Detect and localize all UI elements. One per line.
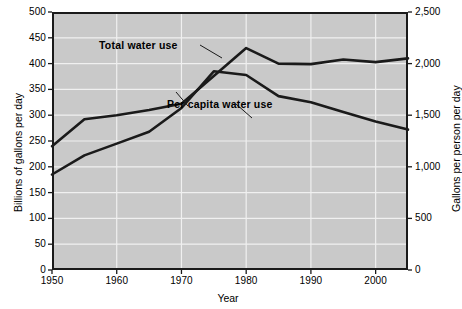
y-axis-left-tick: 100 [8,213,46,223]
y-axis-left-tick: 450 [8,33,46,43]
y-axis-right-tick: 1,500 [415,110,441,120]
y-axis-left-tick: 50 [8,239,46,249]
y-axis-right-tick: 500 [415,213,432,223]
y-axis-left-title: Billions of gallons per day [12,93,24,212]
x-axis-tick: 1970 [170,276,193,286]
x-axis-tick: 1990 [300,276,323,286]
y-axis-left-tick: 0 [8,265,46,275]
y-axis-right-tick: 1,000 [415,162,441,172]
gridlines [54,14,406,268]
y-axis-left-tick: 500 [8,7,46,17]
x-axis-tick: 1950 [41,276,64,286]
y-axis-right-tick: 0 [415,265,421,275]
y-axis-right-tick: 2,000 [415,59,441,69]
x-axis-tick: 1980 [235,276,258,286]
y-axis-right-tick: 2,500 [415,7,441,17]
x-axis-tick: 2000 [364,276,387,286]
y-axis-left-tick: 400 [8,59,46,69]
y-axis-right-title: Gallons per person per day [450,85,462,212]
x-axis-tick: 1960 [105,276,128,286]
series-label-per-capita-water-use: Per capita water use [167,98,273,110]
series-label-total-water-use: Total water use [99,39,178,51]
axis-ticks [48,12,412,274]
x-axis-title: Year [0,292,456,304]
series-lines [52,48,408,174]
